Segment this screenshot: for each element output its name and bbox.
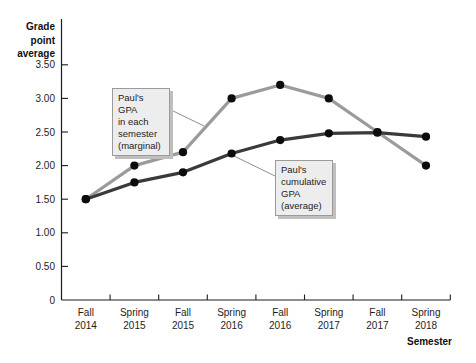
x-tick-label-year: 2016 — [269, 320, 292, 331]
y-tick-label: 1.00 — [36, 227, 56, 238]
data-point — [276, 81, 284, 89]
x-tick-label-year: 2015 — [172, 320, 195, 331]
x-tick-label-term: Spring — [412, 307, 441, 318]
data-point — [228, 94, 236, 102]
x-tick-label-term: Spring — [120, 307, 149, 318]
y-tick-label: 0 — [49, 295, 55, 306]
callout-leader-line — [234, 156, 275, 176]
x-tick-label-term: Spring — [314, 307, 343, 318]
x-tick-label-term: Fall — [369, 307, 385, 318]
y-axis-title: Grade point average — [0, 20, 55, 61]
x-tick-label-year: 2015 — [123, 320, 146, 331]
x-tick-label-year: 2017 — [318, 320, 341, 331]
data-point — [179, 148, 187, 156]
x-axis-title: Semester — [372, 336, 452, 347]
x-tick-label-year: 2014 — [75, 320, 98, 331]
x-tick-label-term: Fall — [175, 307, 191, 318]
x-tick-label-year: 2016 — [220, 320, 243, 331]
callout-leader-line — [169, 109, 204, 126]
data-point — [130, 162, 138, 170]
data-point — [422, 162, 430, 170]
y-tick-label: 0.50 — [36, 261, 56, 272]
x-tick-label-year: 2017 — [366, 320, 389, 331]
gpa-line-chart: 00.501.001.502.002.503.003.50Fall2014Spr… — [0, 0, 476, 363]
y-tick-label: 1.50 — [36, 194, 56, 205]
x-tick-label-term: Fall — [78, 307, 94, 318]
data-point — [325, 94, 333, 102]
data-point — [82, 195, 90, 203]
data-point — [276, 136, 284, 144]
data-point — [373, 129, 381, 137]
gpa-chart-figure: 00.501.001.502.002.503.003.50Fall2014Spr… — [0, 0, 476, 363]
x-tick-label-year: 2018 — [415, 320, 438, 331]
x-tick-label-term: Fall — [272, 307, 288, 318]
y-tick-label: 2.00 — [36, 160, 56, 171]
y-tick-label: 2.50 — [36, 127, 56, 138]
data-point — [130, 178, 138, 186]
data-point — [179, 168, 187, 176]
data-point — [228, 149, 236, 157]
y-tick-label: 3.50 — [36, 59, 56, 70]
x-tick-label-term: Spring — [217, 307, 246, 318]
callout-cumulative-gpa: Paul's cumulative GPA (average) — [275, 160, 333, 216]
data-point — [325, 129, 333, 137]
data-point — [422, 133, 430, 141]
y-tick-label: 3.00 — [36, 93, 56, 104]
callout-marginal-gpa: Paul's GPA in each semester (marginal) — [112, 88, 170, 156]
